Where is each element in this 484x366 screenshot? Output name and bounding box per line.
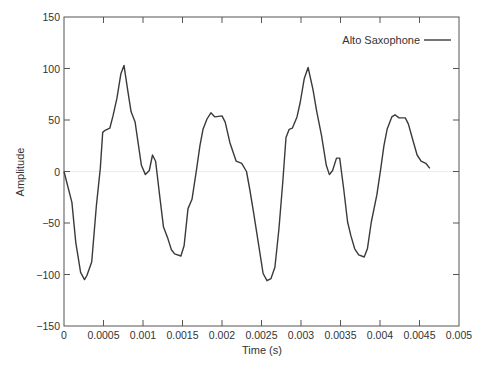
chart-background (0, 0, 484, 366)
line-chart: 00.00050.0010.00150.0020.00250.0030.0035… (0, 0, 484, 366)
x-tick-label: 0.0045 (403, 329, 435, 341)
y-tick-label: 50 (48, 114, 60, 126)
y-tick-label: 100 (42, 63, 60, 75)
legend-label: Alto Saxophone (342, 34, 420, 46)
x-tick-label: 0.0025 (245, 329, 277, 341)
x-tick-label: 0.004 (367, 329, 393, 341)
y-tick-label: 150 (42, 11, 60, 23)
x-tick-label: 0.001 (130, 329, 156, 341)
x-axis-label: Time (s) (242, 344, 282, 356)
y-tick-label: −150 (36, 320, 60, 332)
y-tick-label: 0 (54, 166, 60, 178)
x-tick-label: 0.0005 (87, 329, 119, 341)
y-axis-label: Amplitude (14, 148, 26, 197)
y-tick-label: −100 (36, 269, 60, 281)
x-tick-label: 0.005 (446, 329, 472, 341)
y-tick-label: −50 (42, 217, 60, 229)
x-tick-label: 0 (61, 329, 67, 341)
x-tick-label: 0.0035 (324, 329, 356, 341)
x-tick-label: 0.003 (288, 329, 314, 341)
x-tick-label: 0.002 (209, 329, 235, 341)
x-tick-label: 0.0015 (166, 329, 198, 341)
